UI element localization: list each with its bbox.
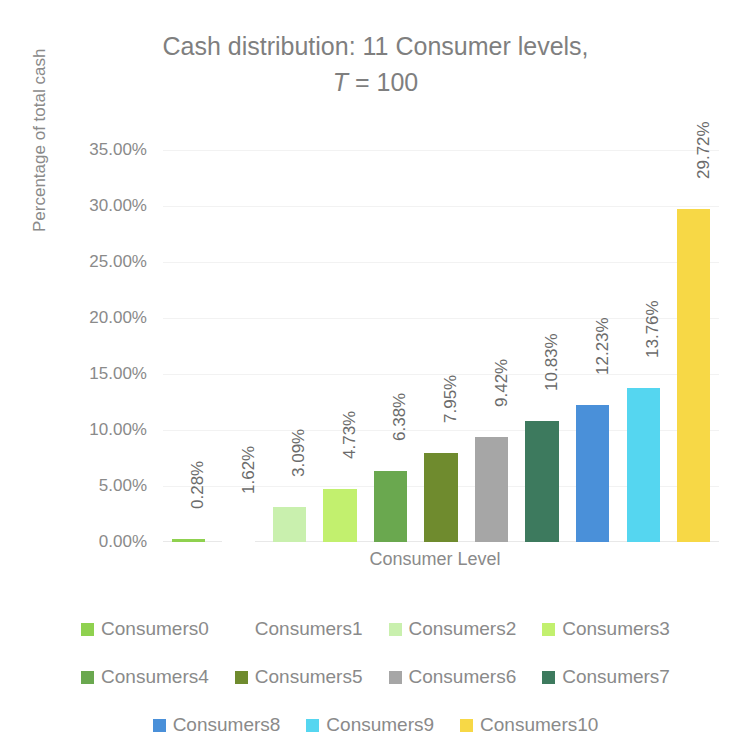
- legend-label: Consumers0: [101, 618, 209, 640]
- chart-legend: Consumers0Consumers1Consumers2Consumers3…: [0, 605, 751, 749]
- chart-title-line2: T = 100: [0, 64, 751, 100]
- legend-item-consumers6[interactable]: Consumers6: [389, 666, 517, 688]
- legend-item-consumers3[interactable]: Consumers3: [542, 618, 670, 640]
- legend-item-consumers4[interactable]: Consumers4: [81, 666, 209, 688]
- y-axis-tick-label: 5.00%: [37, 476, 147, 496]
- legend-swatch-icon: [235, 671, 248, 684]
- legend-item-consumers2[interactable]: Consumers2: [389, 618, 517, 640]
- legend-item-consumers8[interactable]: Consumers8: [153, 714, 281, 736]
- bar-value-label: 6.38%: [390, 392, 410, 440]
- y-axis-tick-label: 35.00%: [37, 140, 147, 160]
- legend-swatch-icon: [81, 671, 94, 684]
- bar-value-label: 7.95%: [441, 375, 461, 423]
- x-axis-title: Consumer Level: [150, 549, 720, 570]
- legend-label: Consumers4: [101, 666, 209, 688]
- bar[interactable]: [627, 388, 660, 542]
- y-axis-tick-label: 30.00%: [37, 196, 147, 216]
- legend-swatch-icon: [542, 623, 555, 636]
- bar-value-label: 10.83%: [542, 333, 562, 391]
- legend-row: Consumers0Consumers1Consumers2Consumers3: [0, 605, 751, 653]
- bar-value-label: 4.73%: [340, 411, 360, 459]
- chart-title-t-symbol: T: [333, 68, 348, 96]
- bar[interactable]: [323, 489, 356, 542]
- bar-slot[interactable]: 13.76%: [627, 150, 660, 542]
- legend-swatch-icon: [460, 719, 473, 732]
- legend-row: Consumers8Consumers9Consumers10: [0, 701, 751, 749]
- bar-slot[interactable]: 9.42%: [475, 150, 508, 542]
- y-axis-tick-label: 20.00%: [37, 308, 147, 328]
- bar[interactable]: [576, 405, 609, 542]
- bar-value-label: 3.09%: [289, 429, 309, 477]
- legend-label: Consumers2: [409, 618, 517, 640]
- legend-label: Consumers8: [173, 714, 281, 736]
- legend-row: Consumers4Consumers5Consumers6Consumers7: [0, 653, 751, 701]
- bar-value-label: 12.23%: [593, 317, 613, 375]
- bar-slot[interactable]: 1.62%: [222, 150, 255, 542]
- legend-swatch-icon: [389, 623, 402, 636]
- legend-item-consumers7[interactable]: Consumers7: [542, 666, 670, 688]
- legend-item-consumers9[interactable]: Consumers9: [306, 714, 434, 736]
- bar[interactable]: [374, 471, 407, 542]
- legend-item-consumers0[interactable]: Consumers0: [81, 618, 209, 640]
- bar-slot[interactable]: 3.09%: [273, 150, 306, 542]
- legend-item-consumers5[interactable]: Consumers5: [235, 666, 363, 688]
- legend-swatch-icon: [306, 719, 319, 732]
- bar-slot[interactable]: 12.23%: [576, 150, 609, 542]
- legend-swatch-icon: [235, 623, 248, 636]
- chart-title: Cash distribution: 11 Consumer levels, T…: [0, 28, 751, 100]
- bar[interactable]: [222, 524, 255, 542]
- legend-swatch-icon: [153, 719, 166, 732]
- chart-title-line1: Cash distribution: 11 Consumer levels,: [162, 32, 588, 60]
- bar[interactable]: [273, 507, 306, 542]
- bar-slot[interactable]: 29.72%: [677, 150, 710, 542]
- legend-label: Consumers1: [255, 618, 363, 640]
- legend-label: Consumers3: [562, 618, 670, 640]
- bar[interactable]: [475, 437, 508, 543]
- legend-item-consumers10[interactable]: Consumers10: [460, 714, 598, 736]
- y-axis-tick-label: 15.00%: [37, 364, 147, 384]
- y-axis-tick-label: 10.00%: [37, 420, 147, 440]
- bar-value-label: 0.28%: [188, 461, 208, 509]
- bar-slot[interactable]: 7.95%: [424, 150, 457, 542]
- bar-value-label: 1.62%: [239, 446, 259, 494]
- bar[interactable]: [424, 453, 457, 542]
- bar-slot[interactable]: 6.38%: [374, 150, 407, 542]
- bar[interactable]: [525, 421, 558, 542]
- legend-label: Consumers5: [255, 666, 363, 688]
- legend-label: Consumers7: [562, 666, 670, 688]
- legend-swatch-icon: [542, 671, 555, 684]
- bar-slot[interactable]: 4.73%: [323, 150, 356, 542]
- legend-label: Consumers10: [480, 714, 598, 736]
- legend-swatch-icon: [389, 671, 402, 684]
- bar-value-label: 13.76%: [643, 300, 663, 358]
- bar-slot[interactable]: 10.83%: [525, 150, 558, 542]
- bar-value-label: 9.42%: [492, 358, 512, 406]
- legend-label: Consumers9: [326, 714, 434, 736]
- bar-value-label: 29.72%: [694, 121, 714, 179]
- y-axis-tick-labels: 0.00%5.00%10.00%15.00%20.00%25.00%30.00%…: [45, 150, 155, 542]
- chart-title-t-value: = 100: [348, 68, 418, 96]
- legend-label: Consumers6: [409, 666, 517, 688]
- plot-area: 0.28%1.62%3.09%4.73%6.38%7.95%9.42%10.83…: [163, 150, 719, 542]
- bar-slot[interactable]: 0.28%: [172, 150, 205, 542]
- bar[interactable]: [677, 209, 710, 542]
- bar[interactable]: [172, 539, 205, 542]
- y-axis-tick-label: 0.00%: [37, 532, 147, 552]
- legend-item-consumers1[interactable]: Consumers1: [235, 618, 363, 640]
- legend-swatch-icon: [81, 623, 94, 636]
- y-axis-tick-label: 25.00%: [37, 252, 147, 272]
